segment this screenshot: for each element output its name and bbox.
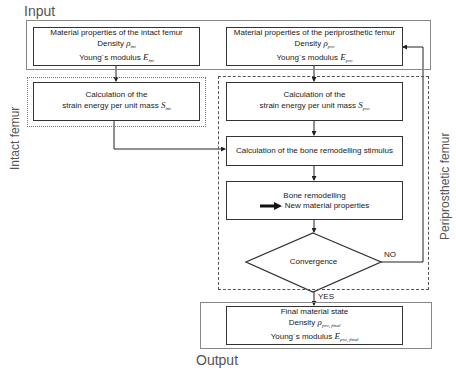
density-label: Density [97, 39, 124, 48]
density-label: Density [289, 318, 316, 327]
intact-strain-energy-box: Calculation of the strain energy per uni… [33, 82, 200, 121]
final-title: Final material state [281, 307, 349, 317]
periprosthetic-strain-energy-box: Calculation of the strain energy per uni… [226, 82, 403, 121]
final-modulus-line: Young´s modulus Epro, final [271, 331, 359, 345]
remodelling-line1: Bone remodelling [283, 191, 345, 201]
thick-right-arrow-icon [260, 202, 282, 210]
density-subscript: pro [328, 44, 335, 49]
intact-femur-label: Intact femur [8, 107, 22, 170]
intact-modulus-line: Young´s modulus Eint [79, 52, 154, 66]
yes-label: YES [318, 292, 334, 301]
density-subscript: pro, final [322, 323, 340, 328]
periprosthetic-femur-label: Periprosthetic femur [438, 133, 452, 240]
intact-density-line: Density ρint [97, 38, 136, 52]
final-material-state-box: Final material state Density ρpro, final… [226, 306, 403, 345]
modulus-label: Young´s modulus [271, 332, 333, 341]
modulus-subscript: pro, final [340, 337, 358, 342]
strain-subscript: pro [363, 106, 370, 111]
remodelling-line2: New material properties [260, 201, 369, 211]
intact-props-title: Material properties of the intact femur [50, 28, 183, 38]
convergence-label: Convergence [246, 257, 381, 266]
modulus-label: Young´s modulus [276, 53, 338, 62]
input-label: Input [24, 3, 55, 19]
bone-remodelling-stimulus-box: Calculation of the bone remodelling stim… [226, 136, 403, 166]
final-density-line: Density ρpro, final [289, 317, 341, 331]
new-properties-text: New material properties [285, 201, 369, 211]
strain-line2: strain energy per unit mass Spro [260, 100, 370, 114]
modulus-subscript: pro [346, 58, 353, 63]
strain-line2: strain energy per unit mass Sint [62, 100, 171, 114]
stimulus-text: Calculation of the bone remodelling stim… [236, 146, 393, 156]
peri-props-title: Material properties of the periprostheti… [234, 28, 395, 38]
bone-remodelling-box: Bone remodelling New material properties [226, 181, 403, 220]
no-label: NO [384, 250, 396, 259]
density-subscript: int [130, 44, 135, 49]
output-label: Output [196, 352, 238, 368]
peri-density-line: Density ρpro [294, 38, 334, 52]
intact-material-properties-box: Material properties of the intact femur … [33, 27, 200, 66]
modulus-label: Young´s modulus [79, 53, 141, 62]
peri-modulus-line: Young´s modulus Epro [276, 52, 352, 66]
strain-text: strain energy per unit mass [260, 101, 357, 110]
strain-line1: Calculation of the [86, 90, 148, 100]
density-label: Density [294, 39, 321, 48]
strain-text: strain energy per unit mass [62, 101, 159, 110]
periprosthetic-material-properties-box: Material properties of the periprostheti… [226, 27, 403, 66]
strain-line1: Calculation of the [284, 90, 346, 100]
strain-subscript: int [165, 106, 170, 111]
modulus-subscript: int [148, 58, 153, 63]
